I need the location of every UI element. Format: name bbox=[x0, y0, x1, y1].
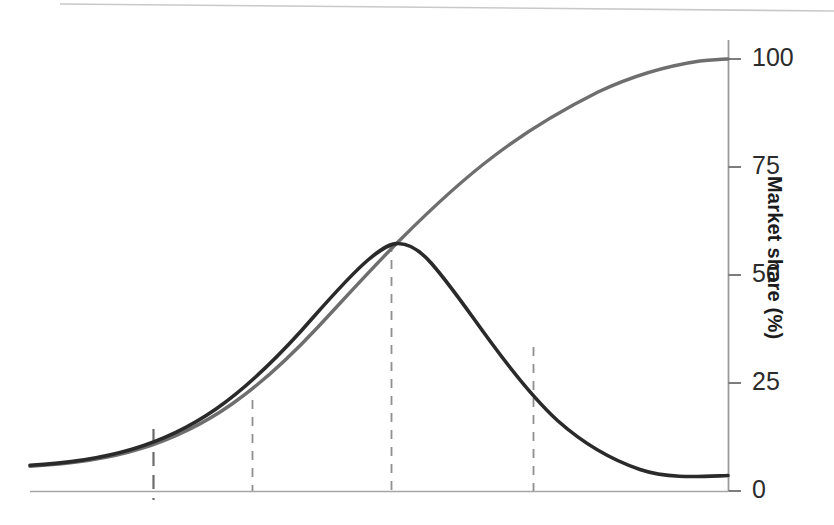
y-axis-title: Market share (%) bbox=[763, 176, 786, 339]
bell-curve-series bbox=[30, 244, 728, 477]
chart-figure: 100 75 50 25 0 Market share (%) bbox=[0, 0, 834, 525]
chart-plot-area bbox=[0, 0, 834, 525]
y-tick-label-100: 100 bbox=[752, 45, 794, 70]
y-tick-label-75: 75 bbox=[752, 153, 780, 178]
y-tick-label-25: 25 bbox=[752, 369, 780, 394]
page-edge-artifact bbox=[60, 4, 834, 11]
y-tick-label-0: 0 bbox=[752, 477, 766, 502]
y-axis-ticks bbox=[729, 59, 742, 491]
s-curve-series bbox=[30, 59, 728, 466]
